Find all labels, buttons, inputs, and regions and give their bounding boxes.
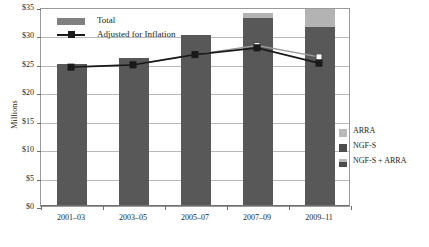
x-axis-tick-mark: [165, 206, 166, 210]
y-axis-tick-mark: [37, 66, 41, 67]
bar-group: [305, 9, 335, 206]
legend-item-total: Total: [57, 14, 202, 28]
bar-segment-arra: [243, 13, 273, 19]
y-axis-tick-mark: [37, 37, 41, 38]
x-axis-line: [41, 205, 349, 206]
legend-label-ngfs: NGF-S: [353, 141, 376, 150]
inner-legend: Total Adjusted for Inflation: [57, 14, 202, 43]
x-axis-tick-mark: [227, 206, 228, 210]
ngfs-plus-arra-swatch-icon: [339, 159, 347, 167]
arra-swatch-icon: [339, 129, 347, 137]
x-axis-tick-mark: [103, 206, 104, 210]
y-axis-tick-label: $35: [8, 4, 34, 12]
x-axis-tick-mark: [351, 206, 352, 210]
bar-segment-ngf-s: [57, 64, 87, 206]
y-axis-tick-mark: [37, 123, 41, 124]
bar-segment-arra: [305, 9, 335, 27]
bar-segment-ngf-s: [305, 27, 335, 206]
ngfs-swatch-icon: [339, 144, 347, 152]
y-axis-tick-mark: [37, 151, 41, 152]
bar-segment-ngf-s: [243, 18, 273, 206]
x-axis-tick-label: 2007–09: [227, 213, 287, 222]
x-axis-tick-label: 2009–11: [289, 213, 349, 222]
bar-group: [243, 13, 273, 206]
y-axis-tick-label: $20: [8, 89, 34, 97]
y-axis-tick-label: $10: [8, 146, 34, 154]
y-axis-tick-mark: [37, 9, 41, 10]
y-axis-tick-label: $25: [8, 61, 34, 69]
bar-group: [57, 64, 87, 206]
legend-item-ngfs: NGF-S: [339, 141, 427, 156]
bar-segment-ngf-s: [119, 58, 149, 206]
square-marker-icon: [68, 31, 75, 38]
bar-segment-ngf-s: [181, 35, 211, 206]
y-axis-tick-label: $30: [8, 32, 34, 40]
total-bar-swatch-icon: [57, 18, 85, 25]
legend-item-arra: ARRA: [339, 126, 427, 141]
x-axis-tick-mark: [289, 206, 290, 210]
x-axis-tick-mark: [41, 206, 42, 210]
x-axis-tick-label: 2003–05: [103, 213, 163, 222]
legend-label-total: Total: [97, 15, 115, 25]
y-axis-tick-mark: [37, 180, 41, 181]
x-axis-tick-label: 2005–07: [165, 213, 225, 222]
bar-group: [119, 58, 149, 206]
y-axis-tick-label: $15: [8, 118, 34, 126]
y-axis-tick-label: $5: [8, 175, 34, 183]
y-axis-tick-mark: [37, 94, 41, 95]
x-axis-tick-label: 2001–03: [41, 213, 101, 222]
legend-item-ngfs-plus-arra: NGF-S + ARRA: [339, 156, 427, 171]
bar-group: [181, 35, 211, 206]
legend-item-adjusted-for-inflation: Adjusted for Inflation: [57, 28, 202, 42]
chart-figure: Millions $35$30$25$20$15$10$5$0 2001–032…: [0, 0, 429, 247]
y-axis-tick-label: $0: [8, 203, 34, 211]
legend-label-ngfs-plus-arra: NGF-S + ARRA: [353, 156, 406, 165]
legend-label-adjusted-for-inflation: Adjusted for Inflation: [97, 29, 175, 39]
right-legend: ARRA NGF-S NGF-S + ARRA: [339, 126, 427, 171]
legend-label-arra: ARRA: [353, 126, 375, 135]
